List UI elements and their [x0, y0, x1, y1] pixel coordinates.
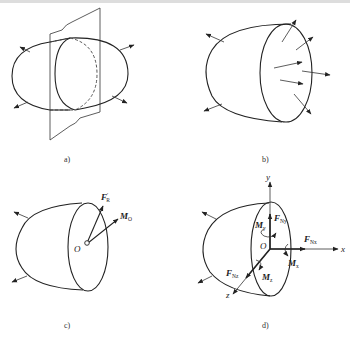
label-f-nx: FNx: [303, 234, 317, 245]
panel-a-diagram: [12, 8, 134, 140]
section-ellipse: [260, 24, 312, 122]
force-arrow: [112, 96, 127, 103]
axis-z-label: z: [225, 290, 230, 300]
force-arrow: [204, 104, 222, 111]
panel-c-diagram: [12, 203, 118, 291]
label-m-x: Mx: [287, 258, 299, 269]
label-f-nz: FNz: [225, 268, 239, 279]
stress-arrow: [282, 20, 296, 42]
panel-b-diagram: [204, 20, 330, 122]
caption-d: d): [262, 321, 269, 330]
body-outline: [206, 24, 291, 122]
force-arrow: [14, 212, 28, 218]
body-left-half: [12, 42, 50, 110]
axis-y-label: y: [265, 172, 270, 182]
force-arrow: [198, 276, 212, 283]
force-arrow: [120, 45, 134, 50]
axis-x-label: x: [340, 244, 345, 254]
force-arrow: [202, 212, 216, 219]
label-m-z: Mz: [261, 272, 273, 283]
caption-a: a): [64, 155, 71, 164]
stress-arrow: [274, 62, 302, 68]
label-force-resultant: F′R: [100, 192, 110, 203]
caption-c: c): [64, 321, 71, 330]
stress-arrow: [302, 71, 330, 75]
force-arrow: [206, 34, 224, 42]
label-moment-resultant: MO: [119, 211, 132, 222]
moment-x-curl: [285, 244, 288, 256]
cutting-plane: [50, 8, 100, 140]
label-origin: O: [74, 244, 81, 254]
header-text-fragment: [0, 0, 350, 3]
section-ellipse: [55, 38, 75, 110]
stress-arrow: [280, 80, 303, 84]
origin-label: O: [260, 241, 267, 251]
caption-b: b): [262, 155, 269, 164]
label-m-y: My: [254, 220, 266, 231]
origin-point: [85, 241, 90, 246]
force-arrow: [12, 276, 27, 282]
force-arrow: [14, 102, 28, 108]
